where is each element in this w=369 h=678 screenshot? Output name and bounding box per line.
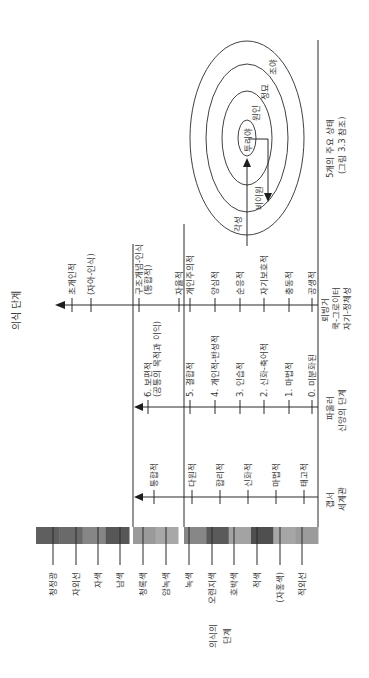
color-label: 남색 <box>115 572 125 588</box>
gebser-stage-label: 다원적 <box>187 463 197 487</box>
color-cell <box>106 527 130 544</box>
color-label: 호박색 <box>229 572 239 596</box>
gebser-header-line2: 세계관 <box>337 487 347 511</box>
color-label: (자홍색) <box>275 572 285 603</box>
color-label: 오렌지색 <box>207 572 217 604</box>
loevinger-stage-label: 공생적 <box>307 271 317 295</box>
state-label-causal: 원인 <box>251 105 261 121</box>
fowler-header-line1: 파울러 <box>325 396 335 420</box>
color-cell <box>133 527 156 544</box>
loevinger-header-line1: 뢰빙거 <box>320 298 330 322</box>
color-cell <box>156 527 179 544</box>
diagram-title: 의식 단계 <box>11 291 22 330</box>
states-header-line1: 5개의 주요 상태 <box>325 119 335 178</box>
fowler-stage-label-sub: (공통의 목적과 이익) <box>152 321 162 397</box>
color-cell <box>229 527 252 544</box>
loevinger-stage-label: 양심적 <box>210 271 220 295</box>
fowler-stage-label: 2. 신화-축어적 <box>259 343 269 397</box>
gebser-stage-label: 합리적 <box>215 463 225 487</box>
color-cell <box>251 527 274 544</box>
loevinger-stage-label: 자기보호적 <box>259 255 269 295</box>
color-cell <box>36 527 60 544</box>
nondual-arrowhead <box>264 193 272 202</box>
color-band-title-line2: 단계 <box>222 628 232 644</box>
color-cell <box>273 527 296 544</box>
color-label: 자외선 <box>71 572 81 596</box>
loevinger-stage-label: 자율적 <box>174 271 184 295</box>
color-band <box>36 527 319 544</box>
loevinger-arrowhead <box>55 301 65 309</box>
color-band-title-line1: 의식의 <box>208 624 218 648</box>
gebser-axis <box>134 490 318 504</box>
color-cell <box>296 527 319 544</box>
gebser-stage-label: 통합적 <box>149 463 159 487</box>
color-label: 암녹색 <box>161 572 171 596</box>
color-label: 적색 <box>252 572 262 588</box>
gebser-arrowhead <box>134 493 143 501</box>
fowler-axis <box>134 400 318 414</box>
states-header-line2: (그림 3.3 참조) <box>337 116 347 174</box>
color-cell <box>59 527 83 544</box>
loevinger-header-line2: 쿡-그로이터 <box>331 287 341 330</box>
loevinger-stage-label-sub: (통합적) <box>143 264 153 295</box>
color-cell <box>184 527 207 544</box>
loevinger-header-line3: 자기-정체성 <box>342 287 352 330</box>
state-label-turiya: 투리야 <box>243 128 253 152</box>
waking-arrowhead <box>243 158 251 167</box>
color-label: 적외선 <box>297 572 307 596</box>
state-label-subtle: 정묘 <box>260 84 270 100</box>
fowler-stage-label: 5. 결합적 <box>185 362 195 397</box>
color-cell <box>83 527 107 544</box>
loevinger-stage-label: (자아-인식) <box>86 253 96 295</box>
color-label: 청정광 <box>48 572 58 596</box>
loevinger-stage-label: 순응적 <box>235 271 245 295</box>
color-cell <box>206 527 229 544</box>
gebser-header-line1: 갭서 <box>325 492 335 508</box>
state-label-waking: 각성 <box>233 216 243 232</box>
fowler-stage-label: 1. 마법적 <box>284 362 294 397</box>
fowler-stage-label: 4. 개인적-반성적 <box>210 335 220 397</box>
fowler-stage-label: 3. 인습적 <box>235 362 245 397</box>
consciousness-stages-diagram: 의식 단계 청정광자외선자색남색청록색암녹색녹색오렌지색호박색적색(자홍색)적외… <box>0 0 369 678</box>
fowler-stage-label: 0. 미분화된 <box>307 354 317 397</box>
gebser-stage-label: 마법적 <box>271 463 281 487</box>
color-label: 녹색 <box>184 572 194 588</box>
color-band-labels: 청정광자외선자색남색청록색암녹색녹색오렌지색호박색적색(자홍색)적외선 <box>48 572 307 604</box>
loevinger-stage-label: 초개인적 <box>67 263 77 295</box>
fowler-arrowhead <box>134 403 143 411</box>
gebser-stage-label: 태고적 <box>299 463 309 487</box>
color-label: 청록색 <box>138 572 148 596</box>
state-label-nondual: 비이원 <box>254 186 264 210</box>
fowler-header-line2: 신앙의 단계 <box>337 389 347 432</box>
loevinger-axis <box>55 298 318 312</box>
color-label: 자색 <box>93 572 103 588</box>
loevinger-stage-label: 충동적 <box>284 271 294 295</box>
state-label-gross: 조야 <box>268 59 278 75</box>
loevinger-stage-label: 개인주의적 <box>185 255 195 295</box>
gebser-stage-label: 신화적 <box>243 463 253 487</box>
